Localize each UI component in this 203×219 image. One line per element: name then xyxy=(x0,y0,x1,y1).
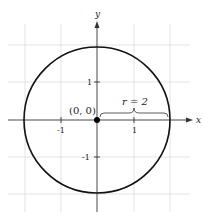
radius-label: r = 2 xyxy=(122,96,148,107)
x-tick-1: 1 xyxy=(132,126,137,135)
y-axis-arrow-icon xyxy=(95,21,100,28)
center-label: (0, 0) xyxy=(69,105,96,116)
x-tick-neg1: -1 xyxy=(57,126,65,135)
x-axis-label: x xyxy=(196,115,201,125)
y-axis-label: y xyxy=(94,9,101,19)
y-tick-1: 1 xyxy=(87,78,92,87)
x-axis-arrow-icon xyxy=(186,118,193,123)
circle-diagram: x y -1 1 1 -1 (0, 0) r = 2 xyxy=(0,0,203,219)
y-tick-neg1: -1 xyxy=(82,153,90,162)
center-point xyxy=(94,117,100,123)
